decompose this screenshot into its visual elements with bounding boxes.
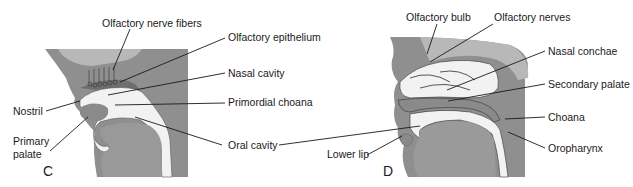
panel-d-letter: D <box>383 163 393 179</box>
label-oropharynx: Oropharynx <box>548 142 604 154</box>
label-olfactory-bulb: Olfactory bulb <box>406 11 471 23</box>
label-lower-lip: Lower lip <box>327 148 369 160</box>
panel-c-letter: C <box>43 163 53 179</box>
label-secondary-palate: Secondary palate <box>548 78 630 90</box>
panel-d-tongue <box>413 121 496 177</box>
label-nostril: Nostril <box>13 105 43 117</box>
label-olfactory-epithelium: Olfactory epithelium <box>228 31 321 43</box>
panel-c-primary-palate-shape <box>80 104 108 122</box>
label-primordial-choana: Primordial choana <box>228 96 313 108</box>
label-nasal-cavity: Nasal cavity <box>228 67 285 79</box>
panel-c <box>45 49 188 177</box>
label-choana: Choana <box>548 111 585 123</box>
embryology-figure: Olfactory nerve fibers Olfactory epithel… <box>0 0 633 187</box>
label-olfactory-nerve-fibers: Olfactory nerve fibers <box>102 17 202 29</box>
label-primary-palate-line1: Primary <box>13 135 50 147</box>
label-nasal-conchae: Nasal conchae <box>548 45 618 57</box>
panel-c-lower-mass <box>100 122 162 177</box>
label-oral-cavity: Oral cavity <box>228 139 278 151</box>
label-olfactory-nerves: Olfactory nerves <box>494 11 570 23</box>
label-primary-palate-line2: palate <box>13 148 42 160</box>
panel-d <box>390 37 528 177</box>
